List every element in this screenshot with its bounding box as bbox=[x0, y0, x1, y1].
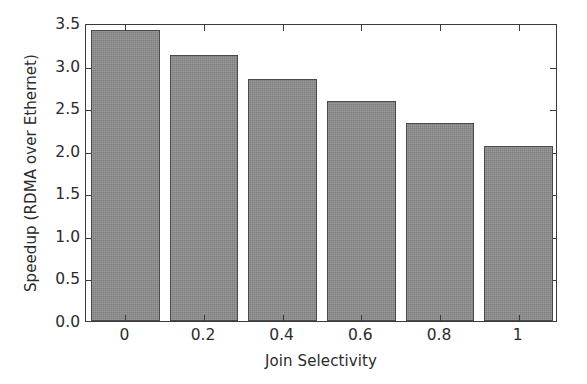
x-tick-label: 1 bbox=[513, 326, 523, 344]
x-axis-label: Join Selectivity bbox=[85, 352, 557, 370]
bar bbox=[248, 79, 317, 321]
x-tick-mark bbox=[283, 315, 284, 321]
y-tick-label: 0.0 bbox=[4, 313, 80, 331]
x-tick-label: 0.8 bbox=[427, 326, 452, 344]
y-tick-label: 2.5 bbox=[4, 100, 80, 118]
x-tick-label: 0.4 bbox=[269, 326, 294, 344]
x-tick-mark bbox=[125, 25, 126, 31]
bar bbox=[406, 123, 475, 321]
y-tick-label: 1.5 bbox=[4, 185, 80, 203]
y-tick-label: 0.5 bbox=[4, 270, 80, 288]
y-tick-label: 3.5 bbox=[4, 15, 80, 33]
x-tick-mark bbox=[361, 315, 362, 321]
y-tick-mark bbox=[550, 68, 556, 69]
bar bbox=[484, 146, 553, 321]
x-tick-mark bbox=[440, 25, 441, 31]
x-tick-label: 0 bbox=[119, 326, 129, 344]
x-tick-mark bbox=[125, 315, 126, 321]
x-tick-mark bbox=[283, 25, 284, 31]
x-tick-mark bbox=[519, 25, 520, 31]
y-tick-label: 3.0 bbox=[4, 58, 80, 76]
bar bbox=[91, 30, 160, 321]
plot-area bbox=[85, 24, 557, 322]
y-tick-mark bbox=[550, 110, 556, 111]
x-tick-mark bbox=[361, 25, 362, 31]
y-tick-label: 1.0 bbox=[4, 228, 80, 246]
x-tick-mark bbox=[204, 315, 205, 321]
x-tick-mark bbox=[204, 25, 205, 31]
x-tick-label: 0.6 bbox=[348, 326, 373, 344]
x-tick-mark bbox=[440, 315, 441, 321]
bar-chart-figure: Speedup (RDMA over Ethernet) 0.00.51.01.… bbox=[0, 0, 587, 384]
x-tick-mark bbox=[519, 315, 520, 321]
bar bbox=[170, 55, 239, 321]
x-axis-tick-labels: 00.20.40.60.81 bbox=[85, 326, 557, 352]
x-tick-label: 0.2 bbox=[191, 326, 216, 344]
y-axis-tick-labels: 0.00.51.01.52.02.53.03.5 bbox=[0, 0, 80, 384]
y-tick-label: 2.0 bbox=[4, 143, 80, 161]
bar bbox=[327, 101, 396, 321]
